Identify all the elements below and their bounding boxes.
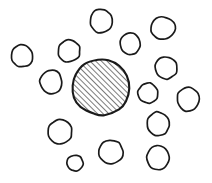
circle-lower-right [147, 112, 169, 136]
circle-right [155, 57, 177, 79]
circle-top [90, 9, 112, 33]
central-hatched-circle [73, 59, 130, 115]
circle-mid-left [40, 70, 62, 94]
circle-left [11, 45, 32, 67]
circle-top-right [151, 17, 176, 39]
circle-bottom-right [147, 146, 170, 170]
figure-root [0, 0, 212, 183]
circle-lower-left [48, 119, 72, 144]
circle-far-right [177, 87, 199, 111]
circle-upper-right [120, 33, 140, 55]
circle-bottom-center [99, 140, 123, 163]
circle-upper-left [58, 40, 80, 62]
diagram-canvas [0, 0, 212, 183]
central-circle-group [73, 59, 130, 115]
circle-bottom-small [67, 155, 83, 171]
circle-mid-right [138, 83, 158, 104]
